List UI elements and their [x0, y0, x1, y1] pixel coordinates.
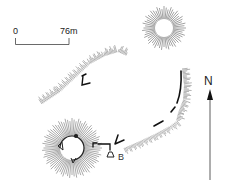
southwest-mound [42, 118, 102, 178]
northwest-ridge [39, 45, 128, 104]
south-bank [124, 121, 181, 154]
site-plan [0, 0, 232, 185]
structure-b [107, 152, 114, 157]
scale-start-label: 0 [13, 27, 18, 36]
northeast-mound [142, 6, 186, 50]
scale-end-label: 76m [60, 27, 78, 36]
scale-bar [16, 38, 70, 45]
wall-lines [82, 71, 181, 150]
north-arrow [207, 89, 213, 180]
north-label: N [204, 75, 213, 87]
east-bank [176, 68, 192, 120]
feature-b-label: B [118, 153, 124, 162]
